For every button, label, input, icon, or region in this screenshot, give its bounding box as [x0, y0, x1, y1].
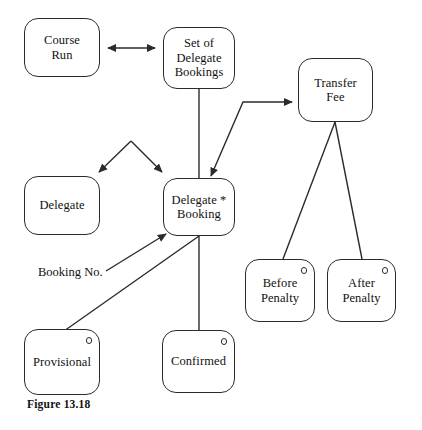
node-transfer-fee[interactable]: Transfer Fee — [298, 58, 373, 122]
state-marker-icon — [221, 338, 228, 345]
node-confirmed-label: Confirmed — [168, 354, 229, 369]
state-marker-icon — [301, 267, 308, 274]
node-transfer-fee-label: Transfer Fee — [311, 76, 360, 105]
state-marker-icon — [382, 267, 389, 274]
node-delegate[interactable]: Delegate — [24, 176, 100, 235]
diagram-canvas: Set of Delegate Bookings --> Course Run — [0, 0, 422, 430]
edge-provisional-to-delegate-booking — [64, 236, 199, 331]
node-delegate-booking-label: Delegate * Booking — [169, 193, 230, 222]
edge-label-booking-no: Booking No. — [38, 265, 103, 280]
node-course-run-label: Course Run — [41, 33, 83, 62]
node-confirmed[interactable]: Confirmed — [162, 330, 235, 393]
edge-booking-no-leader — [106, 234, 166, 271]
node-provisional[interactable]: Provisional — [24, 329, 100, 395]
node-before-penalty-label: Before Penalty — [258, 276, 302, 305]
node-provisional-label: Provisional — [30, 355, 94, 370]
node-after-penalty-label: After Penalty — [339, 276, 383, 305]
edge-delegate-booking-to-transfer-fee — [211, 102, 292, 176]
node-delegate-booking[interactable]: Delegate * Booking — [163, 178, 235, 236]
node-set-of-delegate-bookings-label: Set of Delegate Bookings — [172, 36, 227, 80]
state-marker-icon — [86, 337, 93, 344]
figure-caption: Figure 13.18 — [27, 398, 91, 410]
edge-fork-to-delegate-booking — [131, 141, 162, 172]
node-after-penalty[interactable]: After Penalty — [327, 259, 396, 322]
node-set-of-delegate-bookings[interactable]: Set of Delegate Bookings — [163, 27, 235, 89]
edge-fork-to-delegate — [99, 141, 131, 172]
node-course-run[interactable]: Course Run — [24, 18, 100, 77]
node-delegate-label: Delegate — [36, 198, 87, 213]
node-before-penalty[interactable]: Before Penalty — [245, 259, 315, 322]
edge-transfer-fee-to-before-penalty — [283, 122, 335, 259]
edge-transfer-fee-to-after-penalty — [335, 122, 362, 259]
